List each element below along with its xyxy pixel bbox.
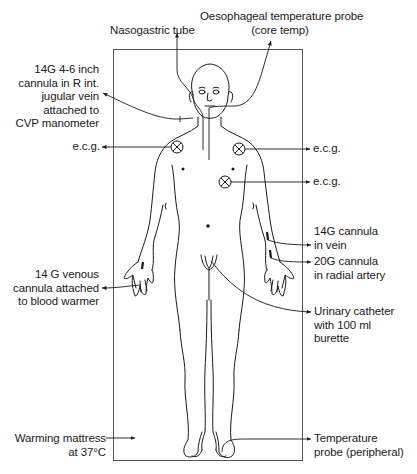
label-ecg-left: e.c.g.	[40, 140, 100, 154]
label-warming-mattress: Warming mattress at 37°C	[0, 432, 106, 459]
right-leg-inner	[211, 300, 216, 450]
left-leg-outer	[180, 330, 202, 457]
urinary-leader	[211, 261, 311, 312]
label-oesophageal-probe: Oesophageal temperature probe (core temp…	[200, 10, 360, 37]
label-radial-line2: in radial artery	[314, 269, 385, 283]
right-eye	[213, 90, 219, 94]
cannula-vein-mark	[267, 232, 268, 240]
label-cannula-vein-line1: 14G cannula	[314, 225, 378, 239]
label-cvp-line4: attached to	[0, 104, 99, 118]
label-radial-cannula: 20G cannula in radial artery	[314, 255, 385, 282]
label-ecg-right-upper: e.c.g.	[313, 142, 341, 156]
label-oesophageal-line2: (core temp)	[200, 24, 360, 38]
left-hand	[124, 262, 153, 296]
label-urinary-catheter: Urinary catheter with 100 ml burette	[314, 305, 394, 346]
label-cannula-vein-line2: in vein	[314, 239, 378, 253]
right-leg-outer	[216, 330, 239, 458]
label-oesophageal-line1: Oesophageal temperature probe	[200, 10, 360, 24]
label-urinary-line3: burette	[314, 332, 394, 346]
right-hand	[265, 262, 294, 296]
label-cvp-line2: cannula in R int.	[0, 77, 99, 91]
label-temperature-probe: Temperature probe (peripheral)	[314, 432, 404, 459]
label-temp-line1: Temperature	[314, 432, 404, 446]
label-venous-cannula: 14 G venous cannula attached to blood wa…	[0, 268, 99, 309]
oesophageal-leader	[209, 41, 271, 160]
label-urinary-line2: with 100 ml	[314, 319, 394, 333]
label-cannula-vein: 14G cannula in vein	[314, 225, 378, 252]
temp-probe-leader	[222, 439, 311, 452]
left-torso-side	[172, 165, 180, 330]
label-venous-line3: to blood warmer	[0, 295, 99, 309]
radial-leader	[271, 258, 311, 262]
label-ecg-right-lower: e.c.g.	[313, 175, 341, 189]
label-venous-line2: cannula attached	[0, 282, 99, 296]
torso-right-outline	[221, 117, 280, 262]
label-temp-line2: probe (peripheral)	[314, 446, 404, 460]
venous-leader	[102, 285, 140, 288]
label-cvp-cannula: 14G 4-6 inch cannula in R int. jugular v…	[0, 63, 99, 131]
cannula-venous-left-mark	[142, 262, 143, 269]
cvp-leader	[103, 93, 193, 119]
navel	[206, 224, 210, 228]
left-nipple	[182, 168, 185, 171]
nose	[207, 93, 212, 101]
label-mattress-line2: at 37°C	[0, 446, 106, 460]
right-torso-side	[239, 165, 247, 330]
left-eye	[199, 90, 205, 94]
torso-left-outline	[138, 117, 198, 262]
label-cvp-line3: jugular vein	[0, 90, 99, 104]
label-radial-line1: 20G cannula	[314, 255, 385, 269]
left-leg-inner	[202, 300, 207, 450]
right-ear	[229, 92, 233, 102]
label-venous-line1: 14 G venous	[0, 268, 99, 282]
label-urinary-line1: Urinary catheter	[314, 305, 394, 319]
right-nipple	[232, 168, 235, 171]
label-cvp-line1: 14G 4-6 inch	[0, 63, 99, 77]
catheter-genital	[201, 255, 217, 300]
label-mattress-line1: Warming mattress	[0, 432, 106, 446]
label-cvp-line5: CVP manometer	[0, 117, 99, 131]
label-nasogastric-tube: Nasogastric tube	[110, 24, 195, 38]
head-outline	[192, 64, 230, 118]
cannula-radial-mark	[270, 250, 271, 258]
